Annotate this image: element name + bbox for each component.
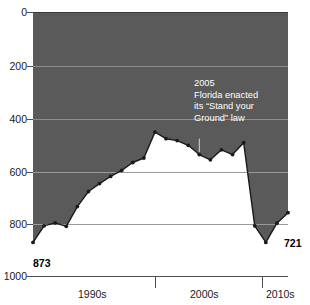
data-point (64, 224, 68, 228)
data-point (253, 224, 257, 228)
data-point (220, 148, 224, 152)
data-point (164, 137, 168, 141)
data-point (264, 241, 268, 245)
data-point (42, 224, 46, 228)
data-point (131, 161, 135, 165)
data-point (153, 130, 157, 134)
data-point (208, 158, 212, 162)
y-tick-label-600: 600 (0, 167, 27, 178)
data-point (186, 143, 190, 147)
data-point (231, 153, 235, 157)
data-point (109, 175, 113, 179)
data-point (87, 190, 91, 194)
annotation-line-3: its “Stand your (194, 101, 286, 113)
annotation-text-block: 2005 Florida enacted its “Stand your Gro… (194, 78, 286, 124)
data-point (53, 221, 57, 225)
chart-container: Gun deaths in Florida by year (0, 0, 310, 305)
y-tick-label-200: 200 (0, 61, 27, 72)
start-value-label: 873 (33, 258, 51, 269)
y-tick-label-400: 400 (0, 114, 27, 125)
data-point (120, 169, 124, 173)
data-point (31, 241, 35, 245)
data-point (197, 153, 201, 157)
data-point (242, 141, 246, 145)
x-tick-label-2000s: 2000s (190, 289, 219, 300)
annotation-line-1: 2005 (194, 78, 286, 90)
data-point (75, 205, 79, 209)
x-tick-label-2010s: 2010s (266, 289, 295, 300)
x-tick-label-1990s: 1990s (78, 289, 107, 300)
y-tick-label-800: 800 (0, 219, 27, 230)
annotation-line-4: Ground” law (194, 113, 286, 125)
data-point (286, 211, 290, 215)
y-tick-label-0: 0 (0, 7, 27, 18)
data-point (142, 156, 146, 160)
y-tick-label-1000: 1000 (0, 271, 27, 282)
end-value-label: 721 (284, 238, 302, 249)
data-point (98, 182, 102, 186)
annotation-line-2: Florida enacted (194, 90, 286, 102)
data-point (275, 221, 279, 225)
data-point (175, 139, 179, 143)
